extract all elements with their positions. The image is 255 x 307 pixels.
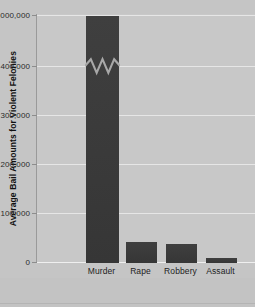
y-axis-tick-label: 0	[25, 258, 30, 267]
chart-screenshot: Average Bail Amounts for Violent Felonie…	[0, 0, 255, 307]
gridline	[37, 15, 255, 16]
y-axis-tick-label: $1,000,000	[0, 11, 30, 20]
y-axis-title-label: Average Bail Amounts for Violent Felonie…	[8, 51, 18, 226]
bar-rape	[126, 242, 157, 263]
x-axis-label-assault: Assault	[197, 266, 244, 276]
gridline	[37, 164, 255, 165]
y-axis-tick-label: 400,000	[0, 62, 30, 71]
bar-robbery	[166, 244, 197, 263]
y-axis-tick	[32, 164, 37, 165]
y-axis-tick	[32, 66, 37, 67]
y-axis-tick	[32, 15, 37, 16]
bar-murder	[86, 16, 119, 263]
y-axis-tick-label: 200,000	[0, 160, 30, 169]
gridline	[37, 66, 255, 67]
y-axis-tick	[32, 115, 37, 116]
bar-assault	[206, 258, 237, 263]
y-axis-tick	[32, 262, 37, 263]
y-axis-tick	[32, 213, 37, 214]
y-axis-title: Average Bail Amounts for Violent Felonie…	[6, 14, 20, 263]
gridline	[37, 213, 255, 214]
plot-area: $1,000,000400,000300,000200,000100,0000	[36, 14, 255, 263]
footer-rule	[0, 303, 255, 304]
gridline	[37, 115, 255, 116]
y-axis-tick-label: 100,000	[0, 209, 30, 218]
y-axis-tick-label: 300,000	[0, 111, 30, 120]
